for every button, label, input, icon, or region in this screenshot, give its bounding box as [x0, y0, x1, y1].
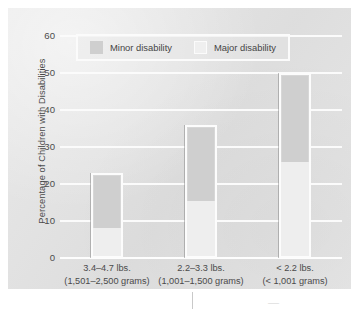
scan-artifact-mark: — [268, 296, 279, 308]
bar-segment-minor-2[interactable] [281, 75, 309, 166]
bar-segment-minor-1[interactable] [187, 127, 215, 205]
y-axis-tick-40: 40 [44, 105, 55, 115]
x-axis-label-1: 2.2–3.3 lbs. (1,001–1,500 grams) [154, 262, 248, 287]
major-swatch-icon [194, 41, 207, 54]
stacked-bar-0[interactable] [91, 173, 123, 258]
y-axis-tick-10: 10 [44, 216, 55, 226]
y-axis-tick-50: 50 [44, 68, 55, 78]
x-axis-label-0: 3.4–4.7 lbs. (1,501–2,500 grams) [60, 262, 154, 287]
x-axis-labels: 3.4–4.7 lbs. (1,501–2,500 grams) 2.2–3.3… [60, 262, 342, 287]
bar-segment-major-2[interactable] [281, 162, 309, 256]
x-axis-label-2: < 2.2 lbs. (< 1,001 grams) [248, 262, 342, 287]
x-axis-label-2-line2: (< 1,001 grams) [248, 275, 342, 288]
y-axis-tick-30: 30 [44, 142, 55, 152]
x-axis-label-1-line1: 2.2–3.3 lbs. [177, 263, 225, 273]
x-axis-label-0-line2: (1,501–2,500 grams) [60, 275, 154, 288]
legend-item-minor: Minor disability [90, 41, 172, 54]
y-axis-tick-20: 20 [44, 179, 55, 189]
legend-label-major: Major disability [214, 42, 276, 53]
bar-group-2 [248, 36, 342, 258]
bar-segment-minor-0[interactable] [93, 175, 121, 232]
bar-group-1 [154, 36, 248, 258]
bar-segment-major-0[interactable] [93, 228, 121, 256]
bar-group-0 [60, 36, 154, 258]
minor-swatch-icon [90, 41, 103, 54]
plot-area: 0102030405060 [60, 36, 342, 258]
figure-bar-chart: Percentage of Children with Disabilities… [0, 0, 359, 312]
x-axis-label-2-line1: < 2.2 lbs. [276, 263, 314, 273]
y-axis-tick-60: 60 [44, 31, 55, 41]
bar-segment-major-1[interactable] [187, 201, 215, 257]
chart-panel: Percentage of Children with Disabilities… [8, 8, 351, 289]
x-axis-label-0-line1: 3.4–4.7 lbs. [83, 263, 131, 273]
scan-artifact-line [192, 292, 193, 309]
x-axis-label-1-line2: (1,001–1,500 grams) [154, 275, 248, 288]
stacked-bar-1[interactable] [185, 125, 217, 258]
legend-item-major: Major disability [194, 41, 276, 54]
legend-label-minor: Minor disability [110, 42, 172, 53]
chart-legend: Minor disability Major disability [76, 34, 290, 61]
y-axis-tick-0: 0 [50, 253, 55, 263]
stacked-bar-2[interactable] [279, 73, 311, 258]
